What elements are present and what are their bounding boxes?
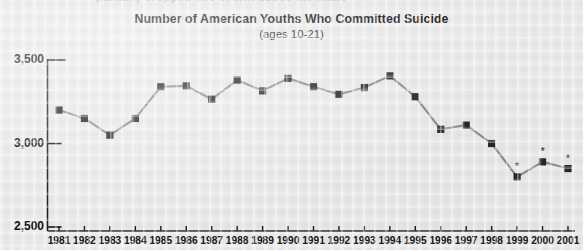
data-point-marker (386, 72, 393, 79)
data-point-marker (335, 91, 342, 98)
data-point-marker (463, 122, 470, 129)
data-point-marker (259, 87, 266, 94)
annotation-asterisk: * (566, 152, 571, 164)
line-chart-plot: *** (0, 0, 583, 250)
data-point-marker (437, 126, 444, 133)
data-point-marker (361, 84, 368, 91)
data-point-marker (183, 82, 190, 89)
data-point-marker (106, 132, 113, 139)
series-line (59, 76, 568, 177)
data-point-marker (564, 165, 571, 172)
annotation-asterisk: * (540, 145, 545, 157)
data-point-marker (514, 173, 521, 180)
data-point-marker (81, 115, 88, 122)
data-point-marker (55, 107, 62, 114)
y-axis-tick-label: 2,500 (0, 219, 44, 233)
data-point-marker (539, 158, 546, 165)
data-point-marker (208, 96, 215, 103)
data-point-marker (234, 76, 241, 83)
annotation-asterisk: * (515, 160, 520, 172)
data-point-marker (488, 140, 495, 147)
x-axis-tick-label: 2001 (552, 235, 583, 246)
data-point-marker (412, 93, 419, 100)
y-axis-tick-label: 3,000 (0, 136, 44, 150)
data-point-marker (284, 75, 291, 82)
data-point-marker (310, 83, 317, 90)
data-point-marker (132, 115, 139, 122)
y-axis-tick-label: 3,500 (0, 52, 44, 66)
data-point-marker (157, 83, 164, 90)
